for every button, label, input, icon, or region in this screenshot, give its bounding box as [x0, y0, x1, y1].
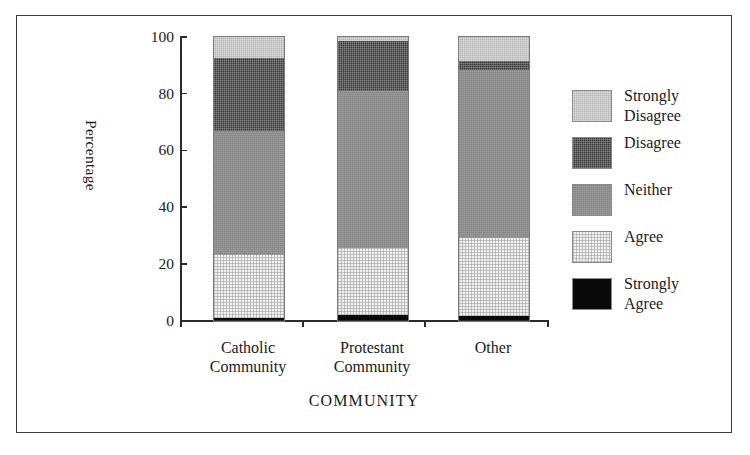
category-label-other: Other	[423, 338, 563, 357]
legend-item-disagree[interactable]: Disagree	[572, 135, 722, 182]
category-label-line: Community	[178, 357, 318, 376]
segment-neither[interactable]	[338, 91, 408, 248]
y-tick-label: 20	[128, 256, 174, 271]
y-tick-label-text: 40	[134, 199, 174, 214]
bar-protestant-community[interactable]	[337, 36, 409, 322]
segment-strongly-disagree[interactable]	[214, 37, 284, 58]
y-tick	[180, 206, 187, 208]
bar-catholic-community[interactable]	[213, 36, 285, 322]
legend-swatch-strongly-agree	[572, 278, 612, 310]
legend-label-line: Agree	[624, 294, 724, 314]
segment-disagree[interactable]	[214, 58, 284, 130]
legend-label-strongly-disagree: StronglyDisagree	[624, 86, 724, 126]
legend-swatch-disagree	[572, 137, 612, 169]
x-tick	[302, 320, 304, 327]
legend-item-strongly-disagree[interactable]: StronglyDisagree	[572, 88, 722, 135]
legend-swatch-agree	[572, 231, 612, 263]
category-label-protestant-community: ProtestantCommunity	[302, 338, 442, 376]
legend-label-agree: Agree	[624, 227, 724, 247]
segment-strongly-agree[interactable]	[459, 316, 529, 320]
segment-strongly-agree[interactable]	[338, 315, 408, 321]
y-tick-label: 0	[128, 313, 174, 328]
y-tick-label: 40	[128, 199, 174, 214]
legend-label-line: Agree	[624, 227, 724, 247]
y-tick-label: 100	[128, 29, 174, 44]
segment-disagree[interactable]	[338, 41, 408, 91]
category-label-line: Catholic	[178, 338, 318, 357]
category-label-line: Other	[423, 338, 563, 357]
y-tick-label-text: 0	[134, 313, 174, 328]
segment-neither[interactable]	[214, 131, 284, 256]
stacked-bar-chart: Percentage 020406080100 CatholicCommunit…	[0, 0, 750, 455]
y-axis-line	[180, 37, 182, 321]
x-axis-title: COMMUNITY	[180, 392, 548, 410]
legend-label-neither: Neither	[624, 180, 724, 200]
legend-item-agree[interactable]: Agree	[572, 229, 722, 276]
y-tick	[180, 263, 187, 265]
y-tick-label: 60	[128, 142, 174, 157]
segment-agree[interactable]	[338, 248, 408, 315]
y-tick-label-text: 20	[134, 256, 174, 271]
legend-item-neither[interactable]: Neither	[572, 182, 722, 229]
legend-swatch-neither	[572, 184, 612, 216]
segment-strongly-disagree[interactable]	[338, 37, 408, 41]
legend-label-line: Strongly	[624, 274, 724, 294]
segment-neither[interactable]	[459, 70, 529, 239]
legend-label-line: Neither	[624, 180, 724, 200]
x-tick	[424, 320, 426, 327]
y-tick-label-text: 60	[134, 142, 174, 157]
y-axis-label: Percentage	[82, 120, 100, 240]
legend-label-line: Strongly	[624, 86, 724, 106]
category-label-line: Protestant	[302, 338, 442, 357]
y-tick-label: 80	[128, 86, 174, 101]
segment-strongly-agree[interactable]	[214, 318, 284, 321]
x-tick	[180, 320, 182, 327]
legend: StronglyDisagreeDisagreeNeitherAgreeStro…	[572, 88, 722, 323]
y-tick	[180, 36, 187, 38]
legend-swatch-strongly-disagree	[572, 90, 612, 122]
segment-strongly-disagree[interactable]	[459, 37, 529, 61]
segment-agree[interactable]	[214, 255, 284, 317]
bar-other[interactable]	[458, 36, 530, 322]
segment-disagree[interactable]	[459, 61, 529, 70]
legend-label-strongly-agree: StronglyAgree	[624, 274, 724, 314]
segment-agree[interactable]	[459, 238, 529, 316]
category-label-catholic-community: CatholicCommunity	[178, 338, 318, 376]
legend-label-line: Disagree	[624, 133, 724, 153]
y-tick	[180, 93, 187, 95]
category-label-line: Community	[302, 357, 442, 376]
y-tick-label-text: 80	[134, 86, 174, 101]
legend-item-strongly-agree[interactable]: StronglyAgree	[572, 276, 722, 323]
y-tick	[180, 150, 187, 152]
legend-label-disagree: Disagree	[624, 133, 724, 153]
y-tick-label-text: 100	[134, 29, 174, 44]
x-tick	[547, 320, 549, 327]
legend-label-line: Disagree	[624, 106, 724, 126]
